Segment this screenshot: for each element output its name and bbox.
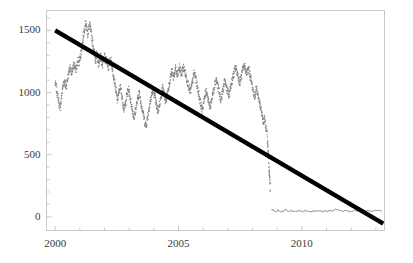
chart-plot-area [0,0,413,263]
y-tick-label: 500 [24,148,41,160]
chart-figure: 050010001500 200020052010 [0,0,413,263]
x-tick-label: 2000 [25,237,85,249]
y-tick-label: 1000 [19,86,41,98]
plot-frame [47,11,385,231]
y-tick-label: 1500 [19,23,41,35]
y-tick-label: 0 [35,210,41,222]
x-tick-label: 2005 [148,237,208,249]
x-tick-label: 2010 [272,237,332,249]
